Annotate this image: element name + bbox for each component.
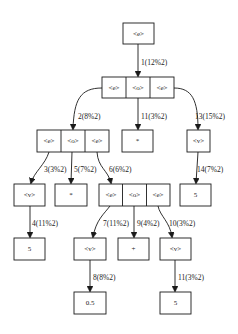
edge-label-3: 3(3%2) [44, 165, 67, 174]
node-label: <e> [133, 30, 144, 38]
edge-5 [71, 152, 72, 183]
edge-2 [73, 88, 102, 129]
node-label: + [132, 245, 136, 253]
edge-label-8: 8(8%2) [93, 273, 116, 282]
node-label: 5 [174, 299, 178, 307]
node-label: 5 [194, 191, 198, 199]
node-label: <v> [170, 245, 181, 253]
edge-label-13: 13(15%2) [195, 112, 225, 121]
node-root: <e> [123, 23, 154, 44]
edge-label-14: 14(7%2) [197, 165, 224, 174]
edge-label-9: 9(4%2) [137, 219, 160, 228]
edge-label-6: 6(6%2) [109, 165, 132, 174]
record-cell: <e> [152, 191, 163, 199]
record-cell: <o> [132, 84, 143, 92]
node-record-level3: <e> <o> <e> [37, 130, 109, 152]
node-v-level4: <v> [14, 184, 45, 206]
record-cell: <e> [156, 84, 167, 92]
node-label: * [136, 137, 140, 145]
node-star-level3: * [122, 130, 153, 152]
node-label: * [69, 191, 73, 199]
node-label: 5 [28, 245, 32, 253]
edge-label-12: 11(3%2) [141, 112, 167, 121]
edge-label-11: 11(3%2) [178, 273, 204, 282]
node-label: <v> [84, 245, 95, 253]
edge-label-4: 4(11%2) [32, 219, 58, 228]
edge-label-7: 7(11%2) [103, 219, 129, 228]
node-star-level4: * [55, 184, 87, 206]
record-cell: <e> [105, 191, 116, 199]
edge-label-1: 1(12%2) [141, 58, 168, 67]
node-v-level5-left: <v> [74, 238, 106, 260]
node-label: 0.5 [86, 299, 95, 307]
node-five-level6: 5 [160, 292, 191, 314]
record-cell: <e> [43, 137, 54, 145]
node-plus-level5: + [118, 238, 149, 260]
record-cell: <o> [129, 191, 140, 199]
record-cell: <e> [91, 137, 102, 145]
parse-tree-diagram: 1(12%2) 2(8%2) 11(3%2) 13(15%2) 3(3%2) 5… [0, 0, 238, 334]
node-half-level6: 0.5 [74, 292, 106, 314]
record-cell: <o> [67, 137, 78, 145]
node-five-level5: 5 [14, 238, 45, 260]
node-record-level4: <e> <o> <e> [99, 184, 170, 206]
node-five-level4: 5 [180, 184, 211, 206]
node-label: <v> [193, 137, 204, 145]
record-cell: <e> [108, 84, 119, 92]
node-record-level2: <e> <o> <e> [102, 77, 174, 98]
edge-label-10: 10(3%2) [169, 219, 196, 228]
node-v-level5-right: <v> [160, 238, 191, 260]
edge-label-2: 2(8%2) [78, 112, 101, 121]
edge-13 [174, 88, 198, 129]
node-label: <v> [24, 191, 35, 199]
node-v-level3: <v> [187, 130, 210, 152]
edge-label-5: 5(7%2) [74, 165, 97, 174]
